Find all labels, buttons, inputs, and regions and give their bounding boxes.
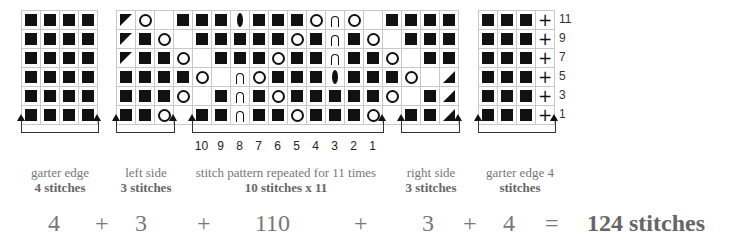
chart-cell bbox=[402, 68, 421, 87]
knit-square-icon bbox=[482, 71, 494, 83]
knit-square-icon bbox=[82, 71, 94, 83]
knit-square-icon bbox=[63, 71, 75, 83]
chart-cell bbox=[364, 30, 383, 49]
chart-cell bbox=[22, 30, 41, 49]
section-name: garter edge 4 bbox=[470, 165, 570, 180]
bracket-right-side bbox=[401, 118, 460, 133]
chart-cell bbox=[288, 49, 307, 68]
chart-cell bbox=[174, 87, 193, 106]
knit-square-icon bbox=[44, 52, 56, 64]
chart-cell bbox=[212, 68, 231, 87]
chart-cell bbox=[155, 49, 174, 68]
row-number: 7 bbox=[559, 50, 566, 64]
knit-square-icon bbox=[253, 14, 265, 26]
yarn-over-circle-icon bbox=[386, 52, 399, 65]
knit-square-icon bbox=[139, 33, 151, 45]
yarn-over-circle-icon bbox=[367, 33, 380, 46]
chart-cell bbox=[155, 68, 174, 87]
chart-cell bbox=[307, 68, 326, 87]
k2tog-triangle-icon bbox=[443, 71, 455, 83]
knit-square-icon bbox=[291, 14, 303, 26]
chart-cell bbox=[307, 49, 326, 68]
chart-cell bbox=[517, 11, 536, 30]
knit-square-icon bbox=[367, 52, 379, 64]
equation-term: 3 bbox=[422, 210, 434, 237]
row-number: 1 bbox=[559, 107, 566, 121]
chart-cell bbox=[269, 87, 288, 106]
chart-cell bbox=[402, 49, 421, 68]
chart-cell bbox=[117, 87, 136, 106]
chart-cell bbox=[250, 87, 269, 106]
knit-square-icon bbox=[253, 52, 265, 64]
knit-square-icon bbox=[386, 71, 398, 83]
chart-cell bbox=[231, 49, 250, 68]
knit-square-icon bbox=[158, 52, 170, 64]
knit-square-icon bbox=[424, 14, 436, 26]
chart-cell bbox=[498, 11, 517, 30]
column-number: 8 bbox=[230, 139, 249, 153]
chart-cell bbox=[212, 11, 231, 30]
chart-cell bbox=[288, 68, 307, 87]
ssk-triangle-icon bbox=[120, 52, 132, 64]
section-count: stitches bbox=[499, 180, 540, 195]
knit-square-icon bbox=[291, 90, 303, 102]
knit-square-icon bbox=[482, 33, 494, 45]
chart-cell bbox=[421, 49, 440, 68]
chart-cell bbox=[136, 68, 155, 87]
arrow-up-icon bbox=[17, 114, 25, 121]
chart-cell bbox=[288, 30, 307, 49]
chart-cell bbox=[193, 68, 212, 87]
section-name: stitch pattern repeated for 11 times bbox=[186, 165, 386, 180]
column-number: 9 bbox=[211, 139, 230, 153]
chart-cell bbox=[250, 49, 269, 68]
chart-cell bbox=[41, 30, 60, 49]
chart-cell bbox=[440, 87, 459, 106]
plus-icon: + bbox=[538, 87, 552, 106]
chart-cell bbox=[345, 49, 364, 68]
chart-cell bbox=[421, 68, 440, 87]
plus-icon: + bbox=[538, 30, 552, 49]
chart-cell bbox=[117, 49, 136, 68]
section-name: right side bbox=[396, 165, 466, 180]
chart-cell bbox=[479, 68, 498, 87]
chart-cell bbox=[79, 11, 98, 30]
knit-square-icon bbox=[520, 33, 532, 45]
knit-square-icon bbox=[310, 90, 322, 102]
knit-square-icon bbox=[25, 90, 37, 102]
equation-term: 3 bbox=[135, 210, 147, 237]
label-right-garter: garter edge 4 stitches bbox=[470, 165, 570, 195]
label-left-side: left side 3 stitches bbox=[106, 165, 186, 195]
double-decrease-icon bbox=[332, 70, 338, 84]
chart-cell bbox=[60, 11, 79, 30]
chart-cell bbox=[136, 30, 155, 49]
chart-cell bbox=[440, 68, 459, 87]
chart-cell bbox=[250, 11, 269, 30]
knit-square-icon bbox=[443, 33, 455, 45]
chart-cell bbox=[326, 87, 345, 106]
chart-cell bbox=[60, 68, 79, 87]
arrow-up-icon bbox=[550, 114, 558, 121]
yarn-over-circle-icon bbox=[291, 33, 304, 46]
bracket-left-side bbox=[116, 118, 175, 133]
knit-square-icon bbox=[348, 52, 360, 64]
chart-cell bbox=[345, 11, 364, 30]
chart-cell bbox=[269, 49, 288, 68]
chart-cell: + bbox=[536, 11, 555, 30]
chart-cell bbox=[517, 30, 536, 49]
knit-square-icon bbox=[139, 52, 151, 64]
knit-square-icon bbox=[272, 14, 284, 26]
chart-cell bbox=[212, 49, 231, 68]
knit-square-icon bbox=[348, 71, 360, 83]
knit-square-icon bbox=[177, 71, 189, 83]
chart-cell bbox=[41, 49, 60, 68]
chart-cell bbox=[79, 87, 98, 106]
knit-square-icon bbox=[501, 71, 513, 83]
chart-cell bbox=[326, 68, 345, 87]
column-number: 7 bbox=[249, 139, 268, 153]
chart-cell bbox=[498, 30, 517, 49]
yarn-over-circle-icon bbox=[348, 14, 361, 27]
equation-total: 124 stitches bbox=[587, 210, 705, 237]
section-count: 3 stitches bbox=[121, 180, 172, 195]
chart-cell: + bbox=[536, 49, 555, 68]
chart-cell bbox=[117, 68, 136, 87]
